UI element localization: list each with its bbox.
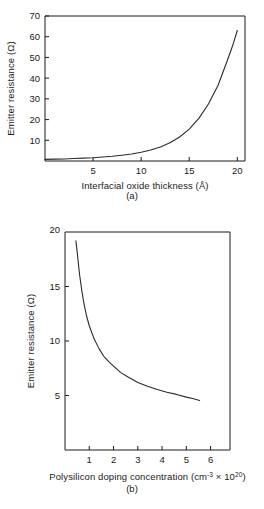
panel-a-xtick-label-10: 10 <box>136 165 147 176</box>
panel-b-xtick-label-1: 1 <box>87 454 92 465</box>
panel-b-caption: (b) <box>126 483 138 494</box>
panel-a-axis-frame <box>45 16 245 161</box>
panel-b-ytick-label-15: 15 <box>49 281 60 292</box>
panel-b-xtick-label-5: 5 <box>184 454 189 465</box>
panel-a-caption: (a) <box>126 190 138 201</box>
panel-a-xaxis-title: Interfacial oxide thickness (Å) <box>81 180 208 191</box>
panel-b-xtick-label-6: 6 <box>208 454 213 465</box>
panel-b-curve <box>76 241 200 401</box>
panel-b-ytick-label-5: 5 <box>55 390 60 401</box>
panel-a-ytick-label-40: 40 <box>29 73 40 84</box>
panel-a-ytick-label-30: 30 <box>29 93 40 104</box>
panel-b-xtick-label-4: 4 <box>159 454 164 465</box>
panel-a-ytick-label-70: 70 <box>29 10 40 21</box>
panel-a-ytick-label-10: 10 <box>29 135 40 146</box>
panel-b-xtick-label-3: 3 <box>135 454 140 465</box>
panel-a-curve <box>45 31 237 160</box>
panel-a-chart: 102030405060705101520Interfacial oxide t… <box>0 0 264 212</box>
panel-b-xaxis-title: Polysilicon doping concentration (cm-3 ×… <box>49 471 245 483</box>
panel-b-xtick-label-2: 2 <box>111 454 116 465</box>
panel-a-xtick-label-15: 15 <box>184 165 195 176</box>
panel-a-plot-area: 102030405060705101520Interfacial oxide t… <box>5 10 245 201</box>
panel-a-xtick-label-20: 20 <box>232 165 243 176</box>
panel-a-yaxis-title: Emitter resistance (Ω) <box>5 41 16 135</box>
panel-a-ytick-label-20: 20 <box>29 114 40 125</box>
panel-b-ytick-label-20: 20 <box>49 224 60 235</box>
panel-b-yaxis-title: Emitter resistance (Ω) <box>25 294 36 388</box>
panel-a-figure: 102030405060705101520Interfacial oxide t… <box>0 0 264 212</box>
panel-b-axis-frame <box>65 232 230 450</box>
panel-b-figure: 5101520123456Polysilicon doping concentr… <box>0 212 264 509</box>
panel-b-ytick-label-10: 10 <box>49 335 60 346</box>
panel-a-ytick-label-60: 60 <box>29 31 40 42</box>
panel-a-xtick-label-5: 5 <box>90 165 95 176</box>
panel-b-chart: 5101520123456Polysilicon doping concentr… <box>0 212 264 509</box>
panel-b-plot-area: 5101520123456Polysilicon doping concentr… <box>25 224 246 494</box>
panel-a-ytick-label-50: 50 <box>29 52 40 63</box>
